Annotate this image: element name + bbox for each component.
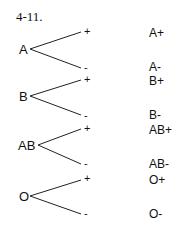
branch-minus: -: [84, 110, 88, 121]
branch-minus: -: [84, 158, 88, 169]
outcome: A-: [149, 61, 161, 73]
node-a: A: [19, 43, 28, 56]
outcome: B-: [149, 109, 161, 121]
branch-plus: +: [84, 74, 90, 85]
outcome: AB+: [149, 124, 172, 136]
branch-plus: +: [84, 173, 90, 184]
branch-minus: -: [84, 62, 88, 73]
outcome: AB-: [149, 158, 169, 170]
branch-minus: -: [84, 208, 88, 219]
outcome: B+: [149, 75, 164, 87]
node-o: O: [19, 190, 29, 203]
branch-plus: +: [84, 123, 90, 134]
node-b: B: [19, 90, 28, 103]
branch-plus: +: [84, 26, 90, 37]
outcome: O+: [149, 174, 165, 186]
outcome: O-: [149, 208, 162, 220]
node-ab: AB: [18, 139, 35, 152]
outcome: A+: [149, 27, 164, 39]
